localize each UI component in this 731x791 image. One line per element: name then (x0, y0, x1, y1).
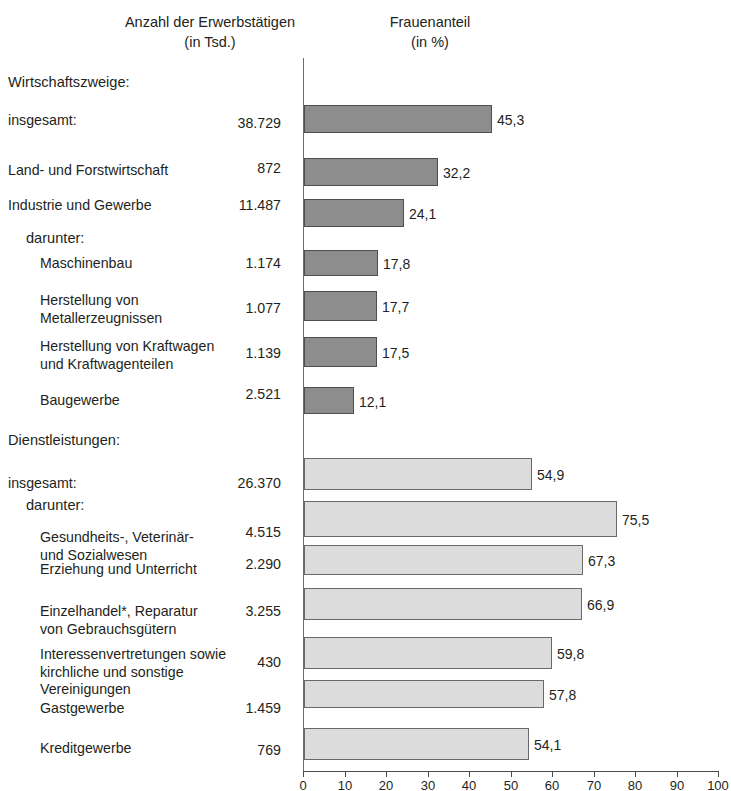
row-count-value: 430 (185, 654, 281, 671)
bar (304, 588, 582, 620)
x-axis-tick (428, 771, 429, 777)
x-axis-tick-label: 20 (371, 779, 401, 791)
x-axis-tick (552, 771, 553, 777)
bar-value-label: 75,5 (622, 513, 649, 527)
bar-value-label: 24,1 (409, 207, 436, 221)
x-axis-tick-label: 0 (288, 779, 318, 791)
bar-value-label: 45,3 (497, 113, 524, 127)
bar-value-label: 67,3 (588, 554, 615, 568)
x-axis-tick (303, 771, 304, 777)
bar (304, 501, 617, 537)
x-axis-tick-label: 70 (579, 779, 609, 791)
bar-value-label: 17,7 (382, 300, 409, 314)
x-axis-tick (677, 771, 678, 777)
column-header-share-unit: (in %) (330, 32, 530, 52)
bar (304, 250, 378, 276)
x-axis-tick-label: 100 (703, 779, 731, 791)
x-axis-tick-label: 10 (330, 779, 360, 791)
bar (304, 105, 492, 133)
row-count-value: 38.729 (185, 115, 281, 132)
x-axis-tick (345, 771, 346, 777)
row-count-value: 2.290 (185, 556, 281, 573)
bar-value-label: 32,2 (443, 166, 470, 180)
row-count-value: 1.174 (185, 255, 281, 272)
x-axis-tick-label: 80 (620, 779, 650, 791)
bar-value-label: 59,8 (557, 647, 584, 661)
bar (304, 199, 404, 227)
row-count-value: 1.459 (185, 700, 281, 717)
column-header-count-title: Anzahl der Erwerbstätigen (125, 14, 295, 30)
x-axis-tick-label: 40 (454, 779, 484, 791)
x-axis-tick-label: 90 (662, 779, 692, 791)
row-label-line: von Gebrauchsgütern (40, 621, 230, 639)
row-count-value: 26.370 (185, 475, 281, 492)
row-count-value: 2.521 (185, 386, 281, 403)
x-axis-tick (594, 771, 595, 777)
bar (304, 291, 377, 321)
bar-value-label: 17,5 (382, 346, 409, 360)
column-header-share: Frauenanteil (in %) (330, 12, 530, 52)
x-axis-tick-label: 30 (413, 779, 443, 791)
bar (304, 680, 544, 708)
bar-value-label: 54,9 (537, 468, 564, 482)
x-axis-tick-label: 50 (496, 779, 526, 791)
chart-container: Anzahl der Erwerbstätigen (in Tsd.) Frau… (0, 0, 731, 791)
x-axis-tick-label: 60 (537, 779, 567, 791)
subheading-darunter-industry: darunter: (26, 230, 84, 247)
bar (304, 637, 552, 669)
x-axis-tick (718, 771, 719, 777)
bar-value-label: 57,8 (549, 688, 576, 702)
row-count-value: 11.487 (185, 197, 281, 214)
x-axis-tick (469, 771, 470, 777)
row-count-value: 1.077 (185, 300, 281, 317)
x-axis-tick (386, 771, 387, 777)
x-axis-tick (511, 771, 512, 777)
section-heading-wirtschaftszweige: Wirtschaftszweige: (8, 74, 130, 91)
row-count-value: 769 (185, 742, 281, 759)
bar-value-label: 17,8 (383, 257, 410, 271)
bar (304, 458, 532, 490)
section-heading-dienstleistungen: Dienstleistungen: (8, 432, 120, 449)
column-header-count-unit: (in Tsd.) (100, 32, 320, 52)
bar-value-label: 54,1 (534, 738, 561, 752)
bar (304, 387, 354, 414)
row-label-line: Vereinigungen (40, 681, 230, 699)
subheading-darunter-services: darunter: (26, 497, 84, 514)
row-count-value: 3.255 (185, 603, 281, 620)
row-count-value: 872 (185, 160, 281, 177)
bar (304, 158, 438, 186)
row-count-value: 1.139 (185, 345, 281, 362)
column-header-count: Anzahl der Erwerbstätigen (in Tsd.) (100, 12, 320, 52)
bar (304, 545, 583, 575)
bar-value-label: 66,9 (587, 598, 614, 612)
column-header-share-title: Frauenanteil (390, 14, 471, 30)
bar (304, 337, 377, 367)
bar (304, 728, 529, 760)
row-count-value: 4.515 (185, 524, 281, 541)
x-axis-tick (635, 771, 636, 777)
bar-value-label: 12,1 (359, 395, 386, 409)
